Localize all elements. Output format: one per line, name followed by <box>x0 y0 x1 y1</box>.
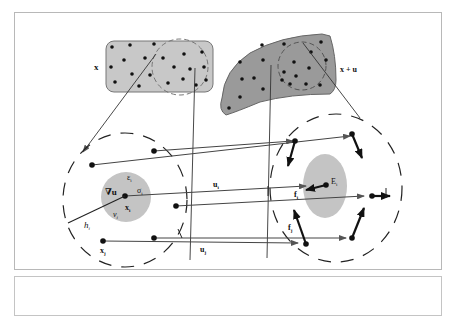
position-xj-label: xj <box>100 246 106 256</box>
deformed-body <box>221 34 336 115</box>
ui-label: ui <box>213 180 219 190</box>
force-fi-label: fi <box>294 190 299 200</box>
reference-config-label: x <box>94 62 99 72</box>
force-fj-label: fj <box>288 223 293 233</box>
horizon-label: hi <box>84 220 91 231</box>
deformed-config-label: x + u <box>340 65 358 74</box>
uj-label: uj <box>200 245 206 255</box>
reference-body <box>106 39 213 95</box>
displacement-gradient-label: ∇u <box>105 187 117 197</box>
